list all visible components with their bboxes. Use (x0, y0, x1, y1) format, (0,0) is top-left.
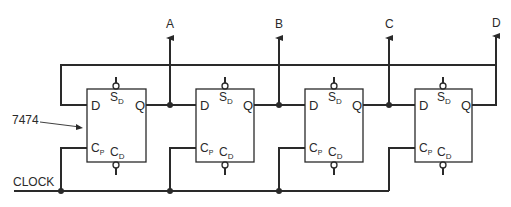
q4-output-wire (472, 65, 496, 105)
set-bubble-icon (331, 83, 337, 89)
chip-label: 7474 (12, 113, 39, 127)
output-d-label: D (492, 16, 501, 30)
chip-pointer-arrow-icon (76, 124, 83, 130)
clear-bubble-icon (222, 162, 228, 168)
clock-tap-2 (170, 148, 196, 191)
chip-pointer-line (40, 122, 80, 127)
clear-bubble-icon (113, 162, 119, 168)
junction-dot (167, 102, 173, 108)
flip-flop-4: D Q SD CP CD (415, 77, 472, 175)
output-a-label: A (166, 17, 174, 31)
q-pin-label: Q (352, 98, 362, 113)
clock-tap-4 (389, 148, 415, 191)
set-bubble-icon (222, 83, 228, 89)
junction-dot (58, 188, 64, 194)
q-pin-label: Q (243, 98, 253, 113)
ring-counter-diagram: D Q SD CP CD D Q SD CP CD D Q SD CP CD D (0, 0, 511, 207)
junction-dot (276, 102, 282, 108)
clear-bubble-icon (440, 162, 446, 168)
clock-tap-3 (279, 148, 305, 191)
junction-dot (276, 188, 282, 194)
junction-dot (386, 102, 392, 108)
output-b-label: B (275, 17, 283, 31)
clock-label: CLOCK (13, 175, 54, 189)
d-pin-label: D (309, 98, 318, 113)
junction-dot (167, 188, 173, 194)
set-bubble-icon (113, 83, 119, 89)
output-c-label: C (385, 17, 394, 31)
q-pin-label: Q (461, 98, 471, 113)
clock-tap-1 (61, 148, 87, 191)
flip-flop-1: D Q SD CP CD (87, 77, 146, 175)
d-pin-label: D (200, 98, 209, 113)
clear-bubble-icon (331, 162, 337, 168)
flip-flop-2: D Q SD CP CD (196, 77, 254, 175)
d-pin-label: D (91, 98, 100, 113)
set-bubble-icon (440, 83, 446, 89)
d-pin-label: D (419, 98, 428, 113)
q-pin-label: Q (135, 98, 145, 113)
flip-flop-3: D Q SD CP CD (305, 77, 363, 175)
